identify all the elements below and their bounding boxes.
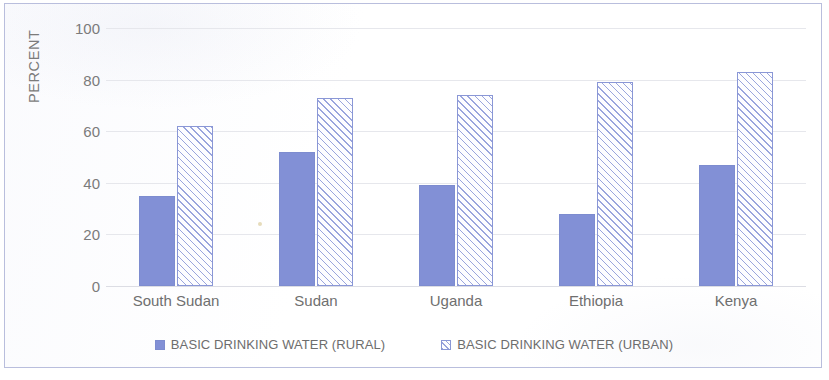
bar-group (279, 28, 353, 286)
y-tick-label-0: 0 (92, 278, 100, 295)
y-tick-label-20: 20 (83, 226, 100, 243)
bar[interactable] (699, 165, 735, 286)
chart-frame: PERCENT 020406080100 South SudanSudanUga… (4, 3, 822, 368)
bar[interactable] (419, 185, 455, 286)
bar[interactable] (457, 95, 493, 286)
chart-legend: BASIC DRINKING WATER (RURAL)BASIC DRINKI… (5, 337, 823, 352)
legend-label: BASIC DRINKING WATER (RURAL) (171, 337, 385, 352)
y-axis-title: PERCENT (26, 30, 42, 104)
legend-item[interactable]: BASIC DRINKING WATER (RURAL) (155, 337, 385, 352)
bar[interactable] (317, 98, 353, 286)
legend-label: BASIC DRINKING WATER (URBAN) (457, 337, 673, 352)
legend-item[interactable]: BASIC DRINKING WATER (URBAN) (441, 337, 673, 352)
legend-swatch-rural (155, 340, 165, 350)
bar-group (699, 28, 773, 286)
plot-area (106, 28, 806, 286)
legend-swatch-urban (441, 340, 451, 350)
bar[interactable] (559, 214, 595, 286)
bar-group (419, 28, 493, 286)
x-tick-label: South Sudan (133, 292, 220, 309)
x-tick-label: Ethiopia (569, 292, 623, 309)
x-tick-label: Kenya (715, 292, 758, 309)
x-axis-tick-labels: South SudanSudanUgandaEthiopiaKenya (106, 292, 806, 318)
x-tick-label: Sudan (294, 292, 337, 309)
y-tick-label-100: 100 (75, 20, 100, 37)
bar[interactable] (279, 152, 315, 286)
gridline-0 (106, 286, 806, 287)
bar[interactable] (177, 126, 213, 286)
bar[interactable] (597, 82, 633, 286)
bar-group (139, 28, 213, 286)
bar[interactable] (139, 196, 175, 286)
y-tick-label-60: 60 (83, 123, 100, 140)
y-axis-tick-labels: 020406080100 (55, 28, 100, 286)
bar[interactable] (737, 72, 773, 286)
y-tick-label-80: 80 (83, 71, 100, 88)
y-tick-label-40: 40 (83, 174, 100, 191)
x-tick-label: Uganda (430, 292, 483, 309)
bar-group (559, 28, 633, 286)
